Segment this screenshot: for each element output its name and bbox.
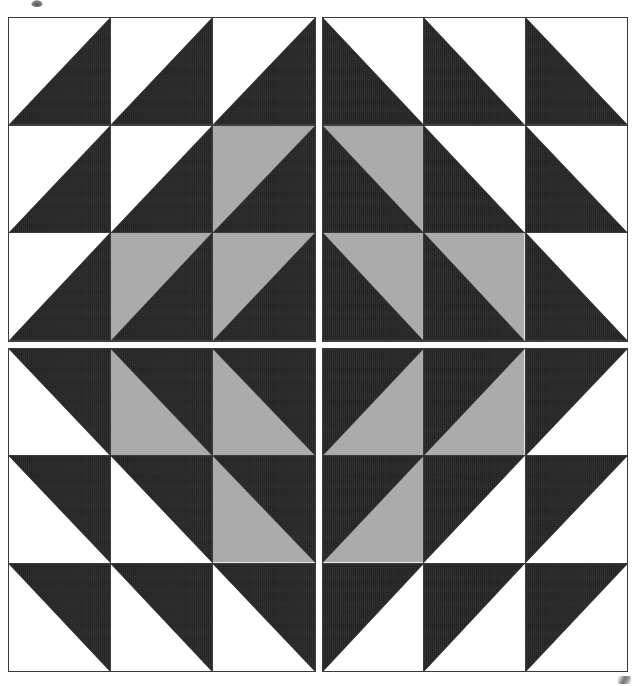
half-square-triangle-bottom-right-r3c1 (323, 564, 424, 671)
half-square-triangle-bottom-left-r2c1 (9, 456, 111, 563)
half-square-triangle-top-left-r1c1 (9, 18, 111, 126)
scan-smudge-bottom-right-icon (618, 676, 631, 684)
half-square-triangle-top-left-r1c2 (111, 18, 213, 126)
half-square-triangle-bottom-right-r2c1 (323, 456, 424, 563)
half-square-triangle-bottom-right-r1c1 (323, 349, 424, 456)
half-square-triangle-top-left-r2c2 (111, 126, 213, 234)
quadrant-top-right (322, 17, 628, 342)
half-square-triangle-bottom-right-r1c2 (424, 349, 525, 456)
half-square-triangle-top-left-r1c3 (213, 18, 315, 126)
quadrant-bottom-right (322, 348, 628, 672)
half-square-triangle-bottom-right-r2c2 (424, 456, 525, 563)
half-square-triangle-top-left-r2c1 (9, 126, 111, 234)
half-square-triangle-top-left-r3c1 (9, 233, 111, 341)
half-square-triangle-top-right-r1c3 (526, 18, 627, 126)
half-square-triangle-top-right-r2c2 (424, 126, 525, 234)
half-square-triangle-top-left-r3c3 (213, 233, 315, 341)
half-square-triangle-top-right-r3c2 (424, 233, 525, 341)
half-square-triangle-bottom-right-r1c3 (526, 349, 627, 456)
half-square-triangle-bottom-left-r1c3 (213, 349, 315, 456)
quadrant-top-left (8, 17, 316, 342)
half-square-triangle-bottom-left-r3c1 (9, 564, 111, 671)
half-square-triangle-top-right-r2c1 (323, 126, 424, 234)
quilt-block (8, 17, 628, 672)
half-square-triangle-top-right-r1c1 (323, 18, 424, 126)
scan-smudge-top-icon (31, 0, 43, 7)
half-square-triangle-bottom-left-r1c2 (111, 349, 213, 456)
half-square-triangle-bottom-right-r2c3 (526, 456, 627, 563)
quadrant-bottom-left (8, 348, 316, 672)
half-square-triangle-bottom-right-r3c2 (424, 564, 525, 671)
half-square-triangle-bottom-right-r3c3 (526, 564, 627, 671)
quilt-image-canvas (0, 0, 639, 686)
half-square-triangle-top-right-r1c2 (424, 18, 525, 126)
half-square-triangle-bottom-left-r2c3 (213, 456, 315, 563)
half-square-triangle-top-left-r3c2 (111, 233, 213, 341)
half-square-triangle-top-right-r2c3 (526, 126, 627, 234)
half-square-triangle-top-right-r3c1 (323, 233, 424, 341)
half-square-triangle-bottom-left-r3c2 (111, 564, 213, 671)
half-square-triangle-bottom-left-r2c2 (111, 456, 213, 563)
half-square-triangle-top-right-r3c3 (526, 233, 627, 341)
half-square-triangle-bottom-left-r3c3 (213, 564, 315, 671)
half-square-triangle-bottom-left-r1c1 (9, 349, 111, 456)
half-square-triangle-top-left-r2c3 (213, 126, 315, 234)
